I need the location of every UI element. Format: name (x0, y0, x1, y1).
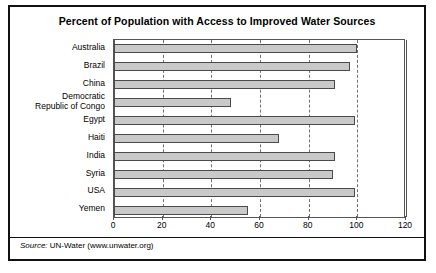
bar (114, 62, 350, 71)
bar-row (114, 183, 404, 201)
category-label: USA (88, 186, 105, 196)
bar (114, 116, 355, 125)
bar-row (114, 94, 404, 112)
x-tick-label: 0 (111, 220, 116, 230)
bar-series (114, 40, 404, 217)
plot-area (113, 39, 405, 218)
value-axis-labels: 020406080100120 (113, 220, 405, 234)
bar (114, 206, 248, 215)
bar (114, 134, 279, 143)
category-label: India (87, 151, 105, 161)
category-label: Democratic Republic of Congo (35, 92, 105, 111)
source-label: Source: (20, 241, 48, 250)
category-label: China (83, 79, 105, 89)
bar-row (114, 112, 404, 130)
category-label: Syria (86, 169, 105, 179)
category-label: Australia (72, 43, 105, 53)
bar (114, 170, 333, 179)
source-note: Source: UN-Water (www.unwater.org) (20, 241, 154, 250)
bar-row (114, 147, 404, 165)
x-tick-label: 20 (157, 220, 166, 230)
bar-row (114, 76, 404, 94)
x-tick-label: 100 (349, 220, 363, 230)
category-label: Haiti (88, 133, 105, 143)
bar-row (114, 165, 404, 183)
bar-row (114, 40, 404, 58)
x-tick-label: 80 (303, 220, 312, 230)
category-label: Egypt (83, 115, 105, 125)
bar (114, 98, 231, 107)
bar (114, 80, 335, 89)
x-tick-label: 40 (206, 220, 215, 230)
category-axis-labels: AustraliaBrazilChinaDemocratic Republic … (10, 39, 109, 218)
category-label: Yemen (79, 204, 105, 214)
source-divider (10, 237, 424, 238)
bar (114, 44, 357, 53)
source-text: UN-Water (www.unwater.org) (48, 241, 154, 250)
chart-figure: Percent of Population with Access to Imp… (8, 5, 426, 261)
bar (114, 188, 355, 197)
category-label: Brazil (84, 61, 105, 71)
chart-title: Percent of Population with Access to Imp… (10, 15, 424, 27)
bar-row (114, 130, 404, 148)
bar-row (114, 58, 404, 76)
x-tick-label: 120 (398, 220, 412, 230)
x-tick-label: 60 (254, 220, 263, 230)
gridline-120 (406, 40, 407, 217)
bar (114, 152, 335, 161)
